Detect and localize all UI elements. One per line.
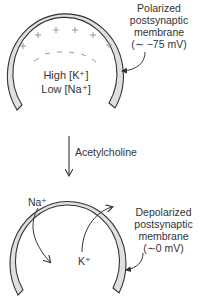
bottom-pointer-arrow bbox=[126, 253, 143, 270]
depolarized-membrane bbox=[10, 202, 126, 295]
polarized-label: Polarized postsynaptic membrane (∼ −75 m… bbox=[118, 2, 200, 50]
top-pointer-arrow bbox=[122, 52, 145, 71]
negative-charges bbox=[34, 52, 96, 62]
ion-concentration-label: High [K⁺] Low [Na⁺] bbox=[36, 68, 96, 96]
depolarized-label: Depolarized postsynaptic membrane (∼0 mV… bbox=[126, 206, 201, 254]
acetylcholine-label: Acetylcholine bbox=[75, 146, 137, 158]
sodium-label: Na⁺ bbox=[28, 196, 47, 208]
potassium-label: K⁺ bbox=[78, 255, 91, 267]
